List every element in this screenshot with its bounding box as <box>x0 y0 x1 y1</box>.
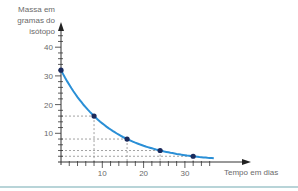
y-ticks: 10203040 <box>44 36 63 157</box>
decay-curve <box>61 70 214 158</box>
data-point <box>91 113 96 118</box>
decay-chart: 10203040 102030 Massa em gramas do isóto… <box>0 0 298 191</box>
y-tick-label: 30 <box>44 72 53 81</box>
data-point <box>158 148 163 153</box>
y-tick-label: 20 <box>44 101 53 110</box>
x-tick-label: 30 <box>180 169 189 178</box>
y-axis-label-line-3: isótopo <box>29 27 55 36</box>
y-axis-arrow-icon <box>58 22 64 31</box>
data-points <box>58 68 195 159</box>
x-ticks: 102030 <box>69 161 209 178</box>
data-point <box>124 136 129 141</box>
x-axis-arrow-icon <box>242 159 251 165</box>
x-tick-label: 20 <box>139 169 148 178</box>
y-axis-label-line-2: gramas do <box>17 16 55 25</box>
y-tick-label: 40 <box>44 43 53 52</box>
x-tick-label: 10 <box>98 169 107 178</box>
x-axis-label: Tempo em dias <box>224 168 278 177</box>
data-point <box>191 154 196 159</box>
axes <box>58 22 251 165</box>
y-tick-label: 10 <box>44 129 53 138</box>
y-axis-label-line-1: Massa em <box>18 5 55 14</box>
data-point <box>58 68 63 73</box>
